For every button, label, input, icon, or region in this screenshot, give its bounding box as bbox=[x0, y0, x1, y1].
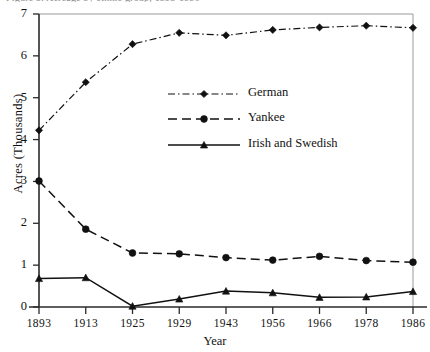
figure-root: Figure 3. Acreage by ethnic group, 1893-… bbox=[0, 0, 430, 352]
series-line bbox=[39, 181, 413, 262]
legend-swatch-yankee bbox=[168, 112, 240, 126]
datapoint-marker-diamond bbox=[269, 26, 276, 33]
datapoint-marker-diamond bbox=[363, 22, 370, 29]
datapoint-marker-diamond bbox=[176, 29, 183, 36]
figure-caption-cropped: Figure 3. Acreage by ethnic group, 1893-… bbox=[6, 0, 426, 2]
y-axis-tick-label: 4 bbox=[9, 132, 27, 147]
legend-label: Irish and Swedish bbox=[248, 136, 338, 151]
datapoint-marker-diamond bbox=[129, 41, 136, 48]
y-axis-tick-label: 0 bbox=[9, 299, 27, 314]
series-yankee bbox=[36, 178, 417, 266]
x-axis-title: Year bbox=[0, 334, 430, 349]
datapoint-marker-circle bbox=[129, 250, 136, 257]
datapoint-marker-circle bbox=[223, 254, 230, 261]
legend-marker-diamond bbox=[200, 90, 207, 97]
datapoint-marker-diamond bbox=[222, 32, 229, 39]
datapoint-marker-diamond bbox=[409, 24, 416, 31]
datapoint-marker-circle bbox=[269, 257, 276, 264]
y-axis-tick-label: 1 bbox=[9, 257, 27, 272]
datapoint-marker-circle bbox=[316, 253, 323, 260]
legend-label: Yankee bbox=[248, 110, 285, 125]
legend-marker-circle bbox=[201, 116, 208, 123]
x-axis-tick-label: 1986 bbox=[385, 317, 430, 329]
datapoint-marker-diamond bbox=[316, 24, 323, 31]
legend-swatch-irish-and-swedish bbox=[168, 138, 240, 152]
datapoint-marker-circle bbox=[36, 178, 43, 185]
y-axis-tick-label: 6 bbox=[9, 48, 27, 63]
legend-label: German bbox=[248, 85, 288, 100]
datapoint-marker-circle bbox=[410, 259, 417, 266]
y-axis-tick-label: 5 bbox=[9, 90, 27, 105]
line-chart-plot bbox=[0, 0, 430, 352]
series-irish-and-swedish bbox=[35, 274, 416, 309]
datapoint-marker-circle bbox=[176, 250, 183, 257]
y-axis-tick-label: 7 bbox=[9, 6, 27, 21]
legend-swatch-german bbox=[168, 87, 240, 101]
y-axis-tick-label: 2 bbox=[9, 215, 27, 230]
datapoint-marker-circle bbox=[363, 257, 370, 264]
datapoint-marker-circle bbox=[82, 226, 89, 233]
y-axis-tick-label: 3 bbox=[9, 173, 27, 188]
